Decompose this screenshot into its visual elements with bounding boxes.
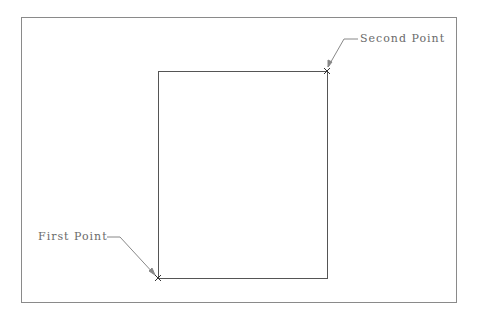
first-point-label: First Point	[38, 230, 108, 243]
second-point-leader	[328, 39, 358, 67]
drawn-rectangle	[159, 72, 328, 279]
drawing-frame	[22, 18, 457, 303]
second-point-label: Second Point	[360, 32, 445, 45]
drawing-canvas	[0, 0, 478, 318]
first-point-leader	[107, 237, 155, 275]
